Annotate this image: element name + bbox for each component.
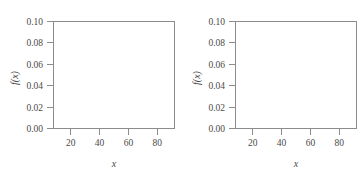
- right-ytick-label-0.10: 0.10: [208, 17, 225, 27]
- left-ytick-label-0.10: 0.10: [26, 17, 43, 27]
- two-panel-normal-distribution-figure: 0.10 0.08 0.06 0.04 0.02 0.00 f(x): [0, 0, 364, 176]
- right-yaxis-title: f(x): [191, 70, 203, 85]
- right-xtick-label-80: 80: [334, 138, 344, 148]
- right-plot-frame: [236, 22, 357, 129]
- left-xaxis-title: x: [111, 158, 117, 169]
- left-plot-frame: [54, 22, 175, 129]
- left-yaxis-title: f(x): [9, 70, 21, 85]
- left-ytick-label-0.02: 0.02: [26, 103, 43, 113]
- right-ytick-label-0.00: 0.00: [208, 124, 225, 134]
- right-xaxis-title: x: [293, 158, 299, 169]
- chart-panel-left: 0.10 0.08 0.06 0.04 0.02 0.00 f(x): [0, 0, 182, 176]
- right-xtick-label-20: 20: [248, 138, 258, 148]
- right-ytick-label-0.02: 0.02: [208, 103, 225, 113]
- right-ytick-label-0.08: 0.08: [208, 38, 225, 48]
- left-xtick-label-60: 60: [124, 138, 134, 148]
- right-ytick-label-0.06: 0.06: [208, 60, 225, 70]
- left-ytick-label-0.04: 0.04: [26, 81, 43, 91]
- left-xtick-label-40: 40: [95, 138, 105, 148]
- right-plot-svg: 0.10 0.08 0.06 0.04 0.02 0.00 f(x): [182, 0, 364, 176]
- left-plot-svg: 0.10 0.08 0.06 0.04 0.02 0.00 f(x): [0, 0, 182, 176]
- right-xtick-label-40: 40: [277, 138, 287, 148]
- chart-panel-right: 0.10 0.08 0.06 0.04 0.02 0.00 f(x): [182, 0, 364, 176]
- right-xtick-label-60: 60: [306, 138, 316, 148]
- left-ytick-label-0.08: 0.08: [26, 38, 43, 48]
- left-xtick-label-80: 80: [152, 138, 162, 148]
- right-ytick-label-0.04: 0.04: [208, 81, 225, 91]
- left-ytick-label-0.00: 0.00: [26, 124, 43, 134]
- left-xtick-label-20: 20: [66, 138, 76, 148]
- left-ytick-label-0.06: 0.06: [26, 60, 43, 70]
